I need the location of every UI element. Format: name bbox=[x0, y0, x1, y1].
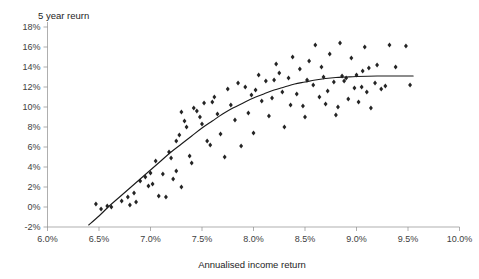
data-point bbox=[287, 76, 291, 81]
data-points-layer bbox=[94, 41, 412, 212]
data-point bbox=[289, 103, 293, 108]
data-point bbox=[361, 69, 365, 74]
y-tick-label: 14% bbox=[22, 62, 40, 72]
data-point bbox=[272, 78, 276, 83]
data-point bbox=[94, 202, 98, 207]
data-point bbox=[303, 115, 307, 120]
data-point bbox=[254, 88, 258, 93]
data-point bbox=[216, 112, 220, 117]
data-point bbox=[208, 143, 212, 148]
x-tick-label: 6.0% bbox=[37, 234, 58, 244]
data-point bbox=[301, 104, 305, 109]
data-point bbox=[277, 71, 281, 76]
data-point bbox=[171, 177, 175, 182]
y-tick-label: 12% bbox=[22, 82, 40, 92]
data-point bbox=[349, 56, 353, 61]
data-point bbox=[120, 199, 124, 204]
data-point bbox=[264, 79, 268, 84]
data-point bbox=[164, 195, 168, 200]
data-point bbox=[313, 43, 317, 48]
data-point bbox=[229, 103, 233, 108]
data-point bbox=[243, 85, 247, 90]
data-point bbox=[128, 203, 132, 208]
data-point bbox=[379, 87, 383, 92]
x-tick-label: 7.5% bbox=[192, 234, 213, 244]
y-axis-title: 5 year reurn bbox=[38, 10, 89, 21]
data-point bbox=[394, 65, 398, 70]
data-point bbox=[367, 66, 371, 71]
data-point bbox=[205, 139, 209, 144]
data-point bbox=[99, 207, 103, 212]
data-point bbox=[226, 87, 230, 92]
y-tick-label: 10% bbox=[22, 102, 40, 112]
data-point bbox=[249, 93, 253, 98]
y-tick-label: 4% bbox=[27, 162, 40, 172]
scatter-chart: 18%16%14%12%10%8%6%4%2%0%-2%6.0%6.5%7.0%… bbox=[0, 0, 479, 279]
y-tick-label: 8% bbox=[27, 122, 40, 132]
data-point bbox=[188, 154, 192, 159]
data-point bbox=[282, 125, 286, 130]
data-point bbox=[126, 195, 130, 200]
data-point bbox=[146, 184, 150, 189]
x-tick-label: 8.0% bbox=[243, 234, 264, 244]
data-point bbox=[157, 194, 161, 199]
data-point bbox=[320, 65, 324, 70]
data-point bbox=[192, 106, 196, 111]
data-point bbox=[169, 156, 173, 161]
axes-layer bbox=[48, 22, 460, 227]
data-point bbox=[365, 90, 369, 95]
x-tick-label: 6.5% bbox=[89, 234, 110, 244]
data-point bbox=[326, 89, 330, 94]
data-point bbox=[210, 100, 214, 105]
data-point bbox=[267, 114, 271, 119]
tick-labels-layer: 18%16%14%12%10%8%6%4%2%0%-2%6.0%6.5%7.0%… bbox=[22, 22, 472, 244]
y-tick-label: 2% bbox=[27, 182, 40, 192]
chart-canvas: 18%16%14%12%10%8%6%4%2%0%-2%6.0%6.5%7.0%… bbox=[0, 0, 479, 279]
y-tick-label: -2% bbox=[24, 222, 40, 232]
data-point bbox=[334, 113, 338, 118]
y-tick-label: 18% bbox=[22, 22, 40, 32]
data-point bbox=[404, 44, 408, 49]
data-point bbox=[212, 95, 216, 100]
data-point bbox=[183, 119, 187, 124]
x-tick-label: 9.0% bbox=[346, 234, 367, 244]
data-point bbox=[174, 139, 178, 144]
data-point bbox=[202, 101, 206, 106]
data-point bbox=[336, 105, 340, 110]
data-point bbox=[185, 125, 189, 130]
data-point bbox=[307, 59, 311, 64]
data-point bbox=[257, 73, 261, 78]
y-tick-label: 16% bbox=[22, 42, 40, 52]
data-point bbox=[179, 185, 183, 190]
data-point bbox=[363, 45, 367, 50]
data-point bbox=[408, 83, 412, 88]
data-point bbox=[338, 41, 342, 46]
x-tick-label: 9.5% bbox=[398, 234, 419, 244]
data-point bbox=[295, 92, 299, 97]
data-point bbox=[132, 191, 136, 196]
data-point bbox=[291, 55, 295, 60]
data-point bbox=[198, 115, 202, 120]
data-point bbox=[219, 132, 223, 137]
data-point bbox=[346, 97, 350, 102]
data-point bbox=[274, 62, 278, 67]
data-point bbox=[195, 109, 199, 114]
y-tick-label: 6% bbox=[27, 142, 40, 152]
data-point bbox=[260, 99, 264, 104]
data-point bbox=[134, 200, 138, 205]
data-point bbox=[280, 90, 284, 95]
data-point bbox=[200, 122, 204, 127]
tick-marks-layer bbox=[44, 27, 460, 231]
data-point bbox=[239, 144, 243, 149]
data-point bbox=[246, 111, 250, 116]
data-point bbox=[375, 63, 379, 68]
data-point bbox=[223, 155, 227, 160]
data-point bbox=[151, 182, 155, 187]
data-point bbox=[324, 102, 328, 107]
data-point bbox=[233, 118, 237, 123]
data-point bbox=[352, 86, 356, 91]
data-point bbox=[236, 81, 240, 86]
data-point bbox=[190, 161, 194, 166]
data-point bbox=[373, 81, 377, 86]
data-point bbox=[252, 131, 256, 136]
